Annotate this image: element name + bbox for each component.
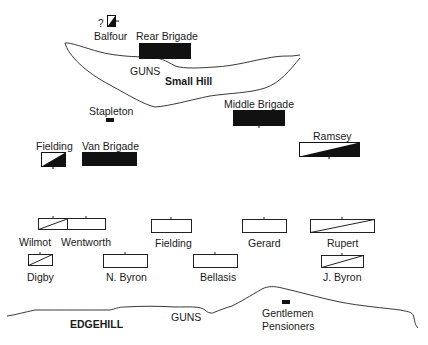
- stapleton-label: Stapleton: [89, 105, 133, 117]
- wentworth-label: Wentworth: [61, 236, 111, 248]
- middle-brigade-unit-symbol: [233, 110, 285, 128]
- bellasis-unit-symbol: [193, 252, 239, 268]
- n-byron-label: N. Byron: [106, 271, 147, 283]
- wilmot-unit-symbol: [38, 216, 70, 230]
- digby-unit-symbol: [28, 252, 54, 266]
- stapleton-unit-symbol: [106, 118, 114, 122]
- j-byron-unit-symbol: [321, 253, 365, 269]
- balfour-uncertain-mark: ?: [98, 18, 104, 30]
- j-byron-label: J. Byron: [323, 271, 362, 283]
- gentlemen-pensioners-unit-symbol: [282, 300, 290, 304]
- rear-brigade-unit-symbol: [139, 43, 191, 60]
- fielding-cavalry-unit-symbol: [41, 152, 67, 169]
- van-brigade-label: Van Brigade: [82, 140, 139, 152]
- gentlemen-pensioners-label-line2: Pensioners: [262, 320, 315, 332]
- gerard-label: Gerard: [248, 237, 281, 249]
- digby-label: Digby: [27, 271, 54, 283]
- fielding-infantry-label: Fielding: [155, 237, 192, 249]
- n-byron-unit-symbol: [103, 252, 149, 268]
- van-brigade-unit-symbol: [82, 152, 137, 168]
- rupert-label: Rupert: [327, 237, 359, 249]
- terrain-lines: [0, 0, 428, 345]
- rupert-unit-symbol: [310, 217, 376, 233]
- fielding-cavalry-label: Fielding: [36, 140, 73, 152]
- edgehill-label: EDGEHILL: [70, 318, 123, 330]
- ramsey-unit-symbol: [299, 142, 361, 159]
- balfour-label: Balfour: [94, 30, 127, 42]
- small-hill-label: Small Hill: [165, 75, 212, 87]
- gerard-unit-symbol: [242, 217, 288, 233]
- guns-bottom-label: GUNS: [171, 311, 201, 323]
- ramsey-label: Ramsey: [313, 130, 352, 142]
- wentworth-unit-symbol: [67, 216, 107, 230]
- guns-top-label: GUNS: [130, 65, 160, 77]
- middle-brigade-label: Middle Brigade: [224, 98, 294, 110]
- wilmot-label: Wilmot: [19, 236, 51, 248]
- gentlemen-pensioners-label-line1: Gentlemen: [262, 307, 313, 319]
- edgehill-ridge-line: [7, 287, 418, 328]
- bellasis-label: Bellasis: [200, 271, 236, 283]
- fielding-infantry-unit-symbol: [151, 217, 193, 233]
- rear-brigade-label: Rear Brigade: [136, 30, 198, 42]
- balfour-unit-symbol: [107, 15, 119, 28]
